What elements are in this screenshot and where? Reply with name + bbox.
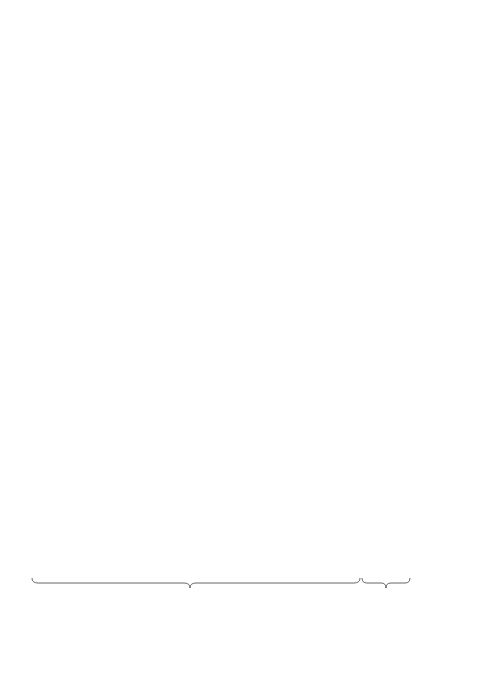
blood-brace <box>362 578 410 588</box>
bone-marrow-brace <box>32 578 360 588</box>
erythropoiesis-diagram <box>0 0 477 688</box>
region-braces <box>32 578 410 588</box>
